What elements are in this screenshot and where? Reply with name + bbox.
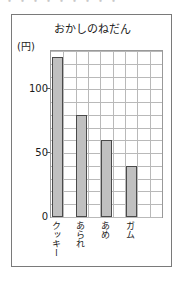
x-label-あめ: あめ: [101, 221, 111, 239]
gridline-horizontal: [51, 217, 162, 218]
bar-あられ: [76, 115, 87, 217]
chart-figure-frame: おかしのねだん (円) 050100 クッキーあられあめガム: [11, 14, 172, 267]
chart-title: おかしのねだん: [12, 20, 173, 36]
bars-layer: [51, 51, 162, 217]
y-tick-mark: [46, 88, 50, 89]
x-axis-category-labels: クッキーあられあめガム: [50, 221, 163, 265]
bleed-text: ・・・・・・・・・: [4, 0, 121, 8]
bar-ガム: [126, 166, 137, 217]
bar-あめ: [101, 140, 112, 217]
y-tick-mark: [46, 152, 50, 153]
y-tick-label-50: 50: [12, 147, 48, 158]
x-label-あられ: あられ: [76, 221, 86, 248]
y-tick-label-0: 0: [12, 211, 48, 222]
x-label-ガム: ガム: [125, 221, 135, 239]
x-label-クッキー: クッキー: [51, 221, 61, 257]
page-top-bleed: ・・・・・・・・・: [0, 0, 184, 11]
y-tick-label-100: 100: [12, 83, 48, 94]
y-axis-tick-labels: 050100: [12, 50, 48, 218]
plot-area: [50, 50, 163, 218]
bar-クッキー: [52, 57, 63, 217]
